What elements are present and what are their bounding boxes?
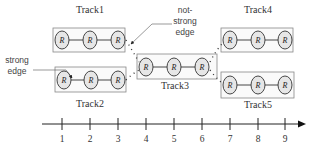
track-3-node-2: R [167,58,181,76]
svg-text:strong: strong [173,16,197,26]
svg-text:not-: not- [178,5,193,15]
track-3-node-1: R [139,58,153,76]
svg-text:R: R [59,36,65,45]
svg-text:R: R [61,76,67,85]
not-strong-edge-annotation: not- strong edge [131,5,197,44]
track-diagram: Track1 R R R R R R Track2 R R R Track3 T… [0,0,323,151]
svg-text:R: R [227,36,233,45]
track-4: Track4 R R R [221,4,293,52]
track-1-node-1: R [55,31,69,49]
track-1-node-2: R [83,31,97,49]
svg-text:R: R [88,76,94,85]
track-2-node-2: R [84,71,98,89]
svg-text:R: R [199,63,205,72]
time-axis: 1 2 3 4 5 6 7 8 9 [42,118,306,144]
svg-text:R: R [255,81,261,90]
axis-arrow-icon [298,121,306,128]
track-1: Track1 R R R [53,4,125,52]
track-2-node-3: R [111,71,125,89]
svg-text:R: R [115,36,121,45]
track-1-label: Track1 [76,4,104,15]
tick-label-4: 4 [144,134,149,144]
track-5-label: Track5 [244,99,272,110]
tick-label-2: 2 [88,134,93,144]
tick-label-7: 7 [228,134,233,144]
svg-text:edge: edge [8,66,27,76]
track-4-node-1: R [223,31,237,49]
track-1-node-3: R [111,31,125,49]
track-3-label: Track3 [161,80,189,91]
svg-text:R: R [115,76,121,85]
svg-text:R: R [143,63,149,72]
track-2-label: Track2 [76,98,104,109]
track-2: R R R Track2 [55,67,126,109]
tick-label-5: 5 [172,134,177,144]
track-5-node-1: R [223,76,237,94]
track-4-node-2: R [251,31,265,49]
svg-text:R: R [282,81,288,90]
svg-text:R: R [227,81,233,90]
track-5: R R R Track5 [221,72,294,110]
svg-text:R: R [282,36,288,45]
track-5-node-2: R [251,76,265,94]
svg-text:strong: strong [5,55,29,65]
track-5-node-3: R [278,76,292,94]
tick-label-6: 6 [200,134,205,144]
track-4-node-3: R [278,31,292,49]
svg-text:R: R [171,63,177,72]
track-3: R R R Track3 [137,54,217,91]
track-4-label: Track4 [244,4,272,15]
tick-label-9: 9 [283,134,288,144]
tick-label-1: 1 [60,134,65,144]
tick-label-8: 8 [256,134,261,144]
svg-text:R: R [255,36,261,45]
svg-text:R: R [87,36,93,45]
track-3-node-3: R [195,58,209,76]
tick-label-3: 3 [116,134,121,144]
svg-text:edge: edge [176,27,195,37]
